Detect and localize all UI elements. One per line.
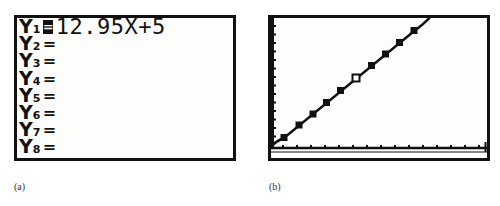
plot-point [368, 62, 375, 69]
equals-toggle[interactable]: = [43, 52, 55, 69]
function-row-y5[interactable]: Y 5 = [19, 87, 166, 104]
function-index: 2 [33, 38, 42, 55]
plot-point [382, 51, 389, 58]
function-index: 6 [33, 107, 42, 124]
function-name: Y [19, 138, 32, 155]
plot-point [281, 134, 288, 141]
plot-point [296, 122, 303, 129]
function-row-y1[interactable]: Y 1 = 12.95X+5 [19, 18, 166, 35]
plot-point [396, 39, 403, 46]
graph-canvas [271, 18, 487, 158]
caption-a: (a) [14, 181, 25, 192]
function-row-y8[interactable]: Y 8 = [19, 138, 166, 155]
function-index: 1 [33, 21, 42, 38]
trace-cursor-point [353, 75, 360, 82]
graph-screen [268, 15, 490, 161]
function-list: Y 1 = 12.95X+5 Y 2 = Y 3 = Y 4 = Y 5 = [19, 18, 166, 156]
caption-b: (b) [269, 181, 281, 192]
equals-toggle[interactable]: = [43, 121, 55, 138]
function-index: 4 [33, 73, 42, 90]
function-row-y7[interactable]: Y 7 = [19, 121, 166, 138]
plot-point [337, 87, 344, 94]
y-equals-editor-screen: Y 1 = 12.95X+5 Y 2 = Y 3 = Y 4 = Y 5 = [14, 15, 236, 161]
equals-toggle[interactable]: = [43, 70, 55, 87]
function-index: 3 [33, 55, 42, 72]
function-index: 8 [33, 141, 42, 158]
equals-toggle[interactable]: = [43, 104, 55, 121]
equals-toggle[interactable]: = [43, 87, 55, 104]
plot-point [411, 27, 418, 34]
function-expression[interactable]: 12.95X+5 [56, 18, 166, 35]
selected-equals-toggle[interactable]: = [43, 20, 53, 34]
function-row-y4[interactable]: Y 4 = [19, 70, 166, 87]
function-index: 5 [33, 90, 42, 107]
function-row-y3[interactable]: Y 3 = [19, 52, 166, 69]
plot-point [310, 111, 317, 118]
function-index: 7 [33, 124, 42, 141]
function-row-y6[interactable]: Y 6 = [19, 104, 166, 121]
plot-point [323, 99, 330, 106]
equals-toggle[interactable]: = [43, 35, 55, 52]
equals-toggle[interactable]: = [43, 138, 55, 155]
